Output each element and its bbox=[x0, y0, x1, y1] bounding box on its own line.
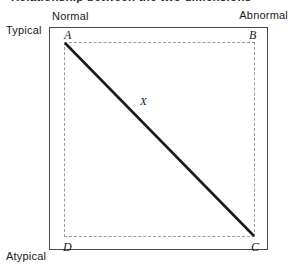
vertex-label-d: D bbox=[63, 240, 72, 255]
diagram-canvas: Relationship between the two dimensions … bbox=[0, 0, 293, 269]
axis-label-abnormal: Abnormal bbox=[239, 9, 288, 21]
figure-title-clipped: Relationship between the two dimensions bbox=[0, 0, 293, 5]
axis-label-atypical: Atypical bbox=[6, 250, 46, 262]
figure-title-text: Relationship between the two dimensions bbox=[11, 0, 251, 3]
dashed-quadrant-rectangle bbox=[64, 42, 255, 237]
axis-label-normal: Normal bbox=[52, 10, 89, 22]
vertex-label-b: B bbox=[249, 28, 256, 43]
vertex-label-a: A bbox=[64, 28, 71, 43]
axis-label-typical: Typical bbox=[6, 24, 42, 36]
point-label-x: X bbox=[140, 95, 147, 107]
vertex-label-c: C bbox=[251, 240, 259, 255]
